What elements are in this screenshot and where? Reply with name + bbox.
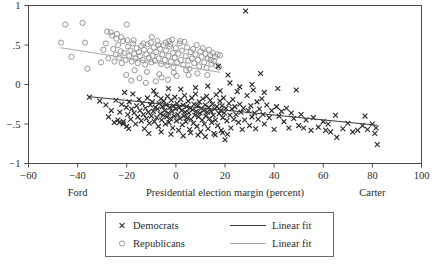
data-point-democrat [109, 108, 114, 113]
data-point-democrat [235, 89, 240, 94]
data-point-democrat [258, 71, 263, 76]
data-point-democrat [134, 103, 139, 108]
y-tick-label: 1 [15, 0, 20, 11]
data-point-democrat [286, 126, 291, 131]
data-point-democrat [232, 104, 237, 109]
data-point-democrat [326, 122, 331, 127]
data-point-democrat [126, 126, 131, 131]
data-point-democrat [117, 110, 122, 115]
data-point-democrat [146, 131, 151, 136]
legend-label-democrats: Democrats [133, 220, 178, 231]
data-point-democrat [274, 104, 279, 109]
carter-end-label: Carter [359, 187, 386, 198]
data-point-democrat [143, 106, 148, 111]
data-point-democrat [203, 134, 208, 139]
data-point-democrat [251, 88, 256, 93]
data-point-democrat [218, 88, 223, 93]
data-point-democrat [139, 118, 144, 123]
data-point-republican [205, 72, 210, 77]
data-point-democrat [119, 102, 124, 107]
data-point-democrat [213, 133, 218, 138]
data-point-democrat [149, 114, 154, 119]
data-point-democrat [122, 90, 127, 95]
data-point-democrat [301, 126, 306, 131]
data-point-democrat [234, 112, 239, 117]
data-point-democrat [130, 92, 135, 97]
data-point-republican [194, 42, 199, 47]
data-point-democrat [103, 103, 108, 108]
data-point-democrat [156, 124, 161, 129]
data-point-democrat [181, 133, 186, 138]
data-point-democrat [182, 93, 187, 98]
data-point-democrat [125, 112, 130, 117]
data-point-republican [165, 77, 170, 82]
data-point-republican [85, 66, 90, 71]
data-point-democrat [328, 130, 333, 135]
data-point-democrat [97, 99, 102, 104]
data-point-republican [179, 48, 184, 53]
data-point-democrat [240, 127, 245, 132]
data-point-republican [111, 46, 116, 51]
data-point-democrat [220, 115, 225, 120]
x-axis-title: Presidential election margin (percent) [146, 187, 305, 199]
data-point-democrat [172, 95, 177, 100]
data-point-democrat [269, 108, 274, 113]
data-point-democrat [282, 119, 287, 124]
data-point-democrat [147, 121, 152, 126]
data-point-democrat [264, 103, 269, 108]
data-point-democrat [294, 88, 299, 93]
ford-end-label: Ford [68, 187, 89, 198]
scatter-plot-figure: −60−40−20020406080100 −1−.50.51 Presiden… [0, 0, 437, 264]
data-point-republican [108, 30, 113, 35]
data-point-republican [58, 40, 63, 45]
data-point-democrat [215, 123, 220, 128]
data-point-democrat [124, 105, 129, 110]
data-point-democrat [296, 123, 301, 128]
data-point-democrat [225, 118, 230, 123]
x-tick-label: −60 [20, 170, 36, 181]
data-point-republican [148, 40, 153, 45]
data-point-republican [124, 72, 129, 77]
data-point-republican [80, 20, 85, 25]
data-point-democrat [245, 93, 250, 98]
data-point-democrat [170, 126, 175, 131]
data-point-democrat [355, 128, 360, 133]
x-tick-label: 80 [367, 170, 378, 181]
data-point-democrat [279, 109, 284, 114]
data-point-democrat [309, 128, 314, 133]
data-point-democrat [333, 113, 338, 118]
data-point-democrat [375, 142, 380, 147]
data-point-republican [106, 56, 111, 61]
data-point-democrat [257, 107, 262, 112]
data-point-democrat [262, 90, 267, 95]
data-point-democrat [206, 126, 211, 131]
data-point-democrat [145, 96, 150, 101]
data-point-democrat [334, 135, 339, 140]
data-point-democrat [169, 132, 174, 137]
data-point-democrat [365, 127, 370, 132]
data-point-democrat [267, 115, 272, 120]
series-republicans-points [58, 20, 222, 85]
axis-text-group: Presidential election margin (percent) F… [68, 187, 386, 199]
x-axis-tick-labels: −60−40−20020406080100 [20, 170, 429, 181]
data-point-democrat [363, 114, 368, 119]
chart-legend: Democrats Republicans Linear fit Linear … [106, 213, 334, 257]
x-tick-label: −20 [119, 170, 135, 181]
data-point-democrat [345, 121, 350, 126]
legend-label-linear-fit-light: Linear fit [272, 238, 311, 249]
data-point-democrat [253, 126, 258, 131]
data-point-democrat [372, 131, 377, 136]
x-tick-label: −40 [69, 170, 85, 181]
data-point-democrat [275, 86, 280, 91]
data-point-republican [63, 22, 68, 27]
data-point-republican [195, 71, 200, 76]
data-point-republican [129, 78, 134, 83]
data-point-republican [144, 69, 149, 74]
data-point-democrat [225, 132, 230, 137]
data-point-democrat [226, 73, 231, 78]
data-point-democrat [230, 97, 235, 102]
data-point-democrat [128, 117, 133, 122]
y-tick-label: −.5 [7, 119, 21, 130]
data-point-republican [103, 41, 108, 46]
data-point-democrat [159, 130, 164, 135]
